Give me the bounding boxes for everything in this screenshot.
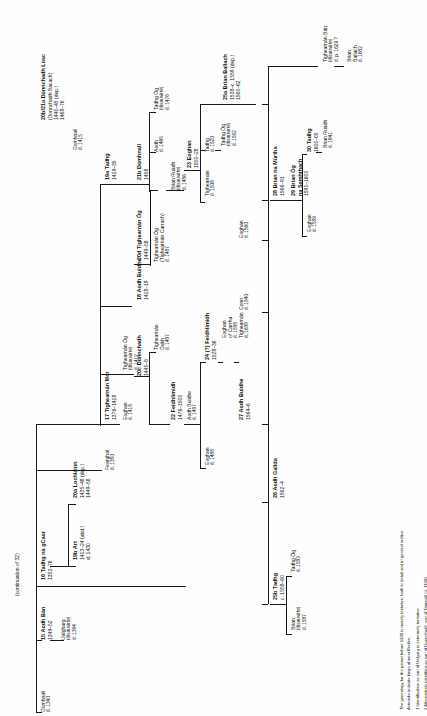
genealogy-chart: (continuation of 32) Domhnalld. 134015 A…: [0, 0, 427, 716]
footnotes-block: The genealogy for the period before 1300…: [398, 530, 427, 710]
connector: [50, 566, 68, 567]
node-dates-line: (disauvirte): [176, 162, 182, 190]
genealogy-node-eoghan-23: 23 Eoghan1500–28: [186, 140, 199, 168]
node-name-line: 25a Brian Ballach: [222, 54, 229, 100]
node-name-line: na Samhthach: [297, 159, 304, 196]
genealogy-node-feidhlimidh-22: 22 Feidhlimidh1476–1500: [170, 382, 183, 420]
node-dates-line: d. 1430: [85, 526, 91, 560]
connector: [302, 236, 307, 237]
continuation-label: (continuation of 32): [14, 553, 20, 596]
connector: [36, 712, 42, 713]
node-dates-line: d. 1587: [302, 607, 308, 630]
genealogy-node-fearghal-1350: Fearghald. 1350: [104, 450, 116, 470]
connector: [149, 352, 156, 353]
node-dates-line: d. 1520: [210, 136, 216, 152]
connector: [36, 424, 102, 425]
genealogy-node-aodh-ban-15: 15 Aodh Bán1349–52: [40, 607, 53, 640]
node-name-line: 22 Feidhlimidh: [170, 382, 177, 420]
node-dates-line: (disauvirte): [159, 87, 165, 110]
node-dates-line: 1468–76: [59, 54, 65, 120]
node-dates-line: 1445–9: [143, 335, 149, 376]
connector: [149, 424, 170, 425]
connector: [262, 424, 268, 425]
genealogy-node-conn-1540: Connd. 1540: [238, 294, 250, 310]
node-dates-line: d. 1415: [78, 128, 84, 150]
node-dates-line: (disauvirte): [66, 617, 72, 640]
genealogy-node-tadhg-og-1476: Tadhg Óg(disauvirte)d. 1476: [153, 87, 171, 110]
genealogy-node-eoghan-1560: Eoghand. 1560: [238, 220, 250, 238]
genealogy-node-brian-ballach-25a: 25a Brian Ballach1538–c. 1559 (dep.)1560…: [222, 54, 241, 100]
connector: [36, 586, 37, 712]
connector: [134, 376, 149, 377]
node-dates-line: 1566–91: [279, 147, 285, 196]
connector: [200, 468, 206, 469]
genealogy-node-brian-ballach-1682: BrianBallachd. 1682: [346, 45, 364, 62]
genealogy-node-tadhg-25b: 25b Tadhgc. 1559–60: [272, 573, 285, 600]
genealogy-node-brian-1587: Brian(disauvirte)d. 1587: [290, 607, 308, 630]
node-name-line: 19a Tadhg: [104, 153, 111, 180]
genealogy-node-aodh-buidhe-18: 18 Aodh Buidhe1418–19: [136, 258, 149, 300]
genealogy-node-tadhg-19a: 19a Tadhg1419–35: [104, 153, 117, 180]
node-name-line: 18 Aodh Buidhe: [136, 258, 143, 300]
connector: [200, 150, 201, 202]
genealogy-node-eoghan-1418: Eoghand. 1418: [122, 402, 134, 420]
connector: [200, 362, 206, 363]
connector: [268, 104, 269, 604]
node-dates-line: 1449–58: [85, 461, 91, 498]
connector: [36, 586, 186, 587]
genealogy-node-brian-na-murtha-28: 28 Brian na Múrtha1566–91: [272, 147, 285, 196]
connector: [100, 424, 120, 425]
node-dates-line: d. 1476: [165, 87, 171, 110]
node-dates-line: d. 1487: [165, 324, 171, 350]
genealogy-node-tighearnan-1508: Tighearnánd. 1508: [204, 170, 216, 196]
connector: [200, 202, 205, 203]
node-name-line: 20c Donnchadh: [136, 335, 143, 376]
footnote-line: Asterisks indicate kings of west Breifne…: [405, 530, 412, 710]
node-dates-line: 1591–1600: [303, 159, 309, 196]
genealogy-node-aodh-1465: Aodhd. 1465: [153, 136, 165, 152]
node-dates-line: 1562–4: [279, 458, 285, 498]
node-dates-line: (disauvirte): [296, 607, 302, 630]
node-dates-line: c. 1559–60: [279, 573, 285, 600]
genealogy-node-brian-ruadh-1486: Brian Ruadh(disauvirte)d. 1486: [170, 162, 188, 190]
node-name-line: 20b/21a Donnchadh Losc: [40, 54, 47, 120]
node-name-line: 16 Tadhg na gCaor: [40, 531, 47, 580]
connector: [150, 190, 151, 266]
node-dates-line: d. 1384: [72, 617, 78, 640]
node-name-line: 27 Aodh Buidhe: [238, 378, 245, 420]
footnote-line: 2 Alternatively identified as son of Don…: [422, 530, 427, 710]
connector: [200, 362, 201, 468]
genealogy-node-domhnall-21b: 21b Domhnall1458: [136, 144, 149, 180]
genealogy-node-tadhg-30: 30 Tadhg1600–05: [306, 128, 319, 152]
node-dates-line: d. 1465: [159, 136, 165, 152]
connector: [166, 190, 184, 191]
node-dates-line: 1413–24 (abd.): [79, 526, 85, 560]
genealogy-node-lochlainn-20a: 20a Lochlainn1435–48 (dep.)1449–58: [72, 461, 91, 498]
connector: [262, 240, 268, 241]
genealogy-node-eoghan-1488: Eoghand. 1488: [204, 447, 216, 465]
connector: [262, 200, 268, 201]
node-name-line: 21b Domhnall: [136, 144, 143, 180]
genealogy-node-domhnall-1340: Domhnalld. 1340: [40, 690, 52, 712]
genealogy-node-aodh-buidhe-27: 27 Aodh Buidhe1564–6: [238, 378, 251, 420]
footnote-line: 1 Identification as son of Ualgarg is ex…: [414, 530, 421, 710]
genealogy-node-tighearnan-og-20d: 20d Tighearnán Óg1449–58: [136, 210, 149, 260]
connector: [334, 66, 344, 67]
node-dates-line: 1476–1500: [177, 382, 183, 420]
connector: [150, 190, 158, 191]
connector: [270, 604, 286, 605]
connector: [134, 184, 149, 185]
genealogy-node-tighearnan-dubh: TighearnánDubhd. 1487: [153, 324, 171, 350]
node-dates-line: (disauvirte): [226, 123, 232, 146]
genealogy-node-tadhg-1520: Tadhgd. 1520: [204, 136, 216, 152]
connector: [120, 374, 134, 375]
connector: [184, 424, 200, 425]
node-dates-line: d. 1418: [128, 402, 134, 420]
connector: [286, 634, 292, 635]
connector: [149, 352, 150, 424]
node-dates-line: d. 1340: [46, 690, 52, 712]
node-dates-line: d. 1638: [244, 312, 250, 338]
genealogy-node-brian-ruadh-1641: Brian Ruadhd. 1641: [322, 120, 334, 148]
genealogy-node-tadhg-na-gcaor-16: 16 Tadhg na gCaor1352–76: [40, 531, 53, 580]
genealogy-node-tighearnan-1638: Tighearnánd. 1638: [238, 312, 250, 338]
